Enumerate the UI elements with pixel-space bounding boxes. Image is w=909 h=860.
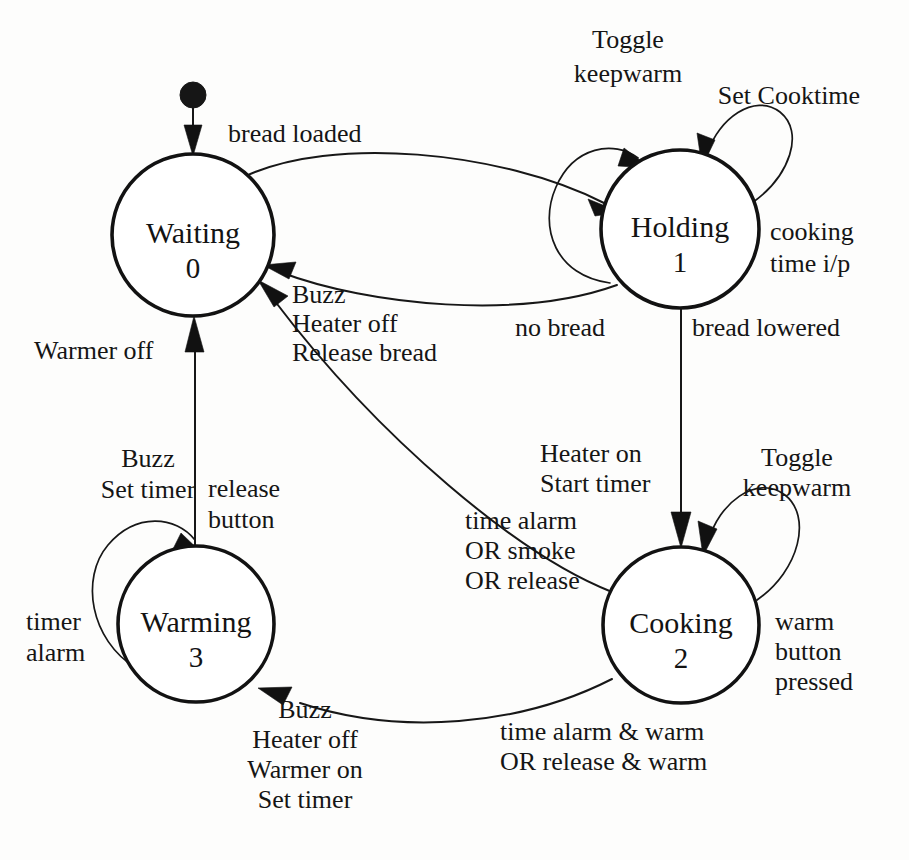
edge-label-or-smoke: OR smoke [465, 536, 576, 565]
edge-label-warming-action-line3: Warmer on [247, 755, 363, 784]
state-diagram-canvas: Waiting 0 Holding 1 Warming 3 Cooking 2 … [0, 0, 909, 860]
transition-warming-to-waiting [185, 316, 204, 546]
state-node-holding[interactable]: Holding 1 [601, 150, 759, 308]
edge-label-bread-loaded: bread loaded [228, 119, 362, 148]
state-label-waiting: Waiting [146, 216, 240, 249]
edge-label-warming-buzz: Buzz [121, 444, 174, 473]
edge-label-buzz-heateroff-releasebread-line2: Heater off [292, 309, 398, 338]
transition-waiting-to-holding [246, 153, 620, 216]
state-number-warming: 3 [189, 641, 204, 673]
state-label-warming: Warming [141, 605, 252, 638]
state-number-cooking: 2 [674, 642, 689, 674]
arrowhead-cooking-to-waiting [258, 280, 288, 307]
edge-cooking-to-warming [300, 679, 612, 722]
edge-label-warming-set-timer: Set timer [101, 475, 196, 504]
edge-label-bread-lowered: bread lowered [692, 313, 840, 342]
edge-label-warm-guard-line3: pressed [775, 667, 853, 696]
edge-label-or-release: OR release [465, 566, 580, 595]
edge-label-cooking-guard-line2: time i/p [770, 249, 850, 278]
state-node-cooking[interactable]: Cooking 2 [603, 547, 759, 703]
edge-label-start-timer: Start timer [540, 469, 651, 498]
edge-label-alarm-guard-line2: alarm [26, 638, 85, 667]
edge-label-cooking-warming-guard-line1: time alarm & warm [500, 717, 704, 746]
edge-label-cooking-toggle: Toggle [761, 443, 833, 472]
edge-label-timer-guard-line1: timer [26, 607, 81, 636]
state-label-cooking: Cooking [629, 606, 732, 639]
state-number-holding: 1 [673, 246, 688, 278]
edge-label-warm-guard-line2: button [775, 637, 841, 666]
arrowhead-holding-to-cooking [671, 512, 691, 548]
arrowhead-start-to-waiting [184, 125, 202, 156]
edge-label-set-cooktime: Set Cooktime [718, 81, 860, 110]
transition-start-to-waiting [180, 82, 206, 156]
edge-label-toggle-keepwarm-line2: keepwarm [574, 59, 682, 88]
arrowhead-warming-to-waiting [185, 316, 204, 352]
edge-label-warming-action-line2: Heater off [252, 725, 358, 754]
edge-label-button-line2: button [208, 505, 274, 534]
state-label-holding: Holding [631, 210, 729, 243]
edge-label-no-bread: no bread [515, 313, 605, 342]
state-node-warming[interactable]: Warming 3 [118, 546, 274, 702]
edge-label-cooking-warming-guard-line2: OR release & warm [500, 747, 707, 776]
state-number-waiting: 0 [186, 252, 201, 284]
edge-label-warm-guard-line1: warm [775, 607, 834, 636]
edge-label-warmer-off: Warmer off [34, 336, 154, 365]
edge-label-time-alarm: time alarm [465, 506, 577, 535]
edge-label-release-line1: release [208, 474, 280, 503]
edge-label-warming-action-line4: Set timer [258, 785, 353, 814]
initial-state-dot [180, 82, 206, 108]
edge-label-buzz-heateroff-releasebread-line3: Release bread [292, 338, 437, 367]
edge-label-toggle-keepwarm-line1: Toggle [592, 25, 664, 54]
transition-holding-to-cooking [671, 308, 691, 548]
edge-waiting-to-holding [246, 153, 604, 203]
edge-label-cooking-keepwarm: keepwarm [743, 473, 851, 502]
edge-label-warming-action-line1: Buzz [278, 695, 331, 724]
edge-label-cooking-guard-line1: cooking [770, 217, 854, 246]
edge-label-heater-on: Heater on [540, 439, 642, 468]
fsm-svg: Waiting 0 Holding 1 Warming 3 Cooking 2 … [0, 0, 909, 860]
edge-label-buzz-heateroff-releasebread-line1: Buzz [292, 280, 345, 309]
state-node-waiting[interactable]: Waiting 0 [112, 154, 274, 316]
